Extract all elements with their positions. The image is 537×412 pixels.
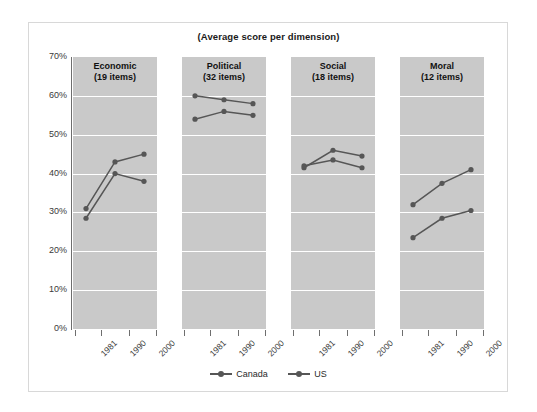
panel-name: Political [182,61,266,72]
x-axis-tick-label: 1981 [426,338,446,358]
gridline [73,212,157,213]
y-axis-tick-label: 0% [33,323,67,333]
gridline [291,135,375,136]
panel-economic: Economic(19 items) [73,57,157,329]
y-axis-tick-label: 40% [33,168,67,178]
y-axis-tick-label: 10% [33,284,67,294]
gridline [73,174,157,175]
gridline [400,212,484,213]
x-axis-tick-label: 1981 [317,338,337,358]
y-axis-line [71,57,72,330]
panel-political: Political(32 items) [182,57,266,329]
x-axis-tick [483,330,484,336]
panel-item-count: (19 items) [73,72,157,83]
panel-name: Moral [400,61,484,72]
line-marker-icon [288,370,310,378]
x-axis-tick [75,330,76,336]
gridline [400,96,484,97]
gridline [400,174,484,175]
x-axis-tick-label: 1990 [455,338,475,358]
panel-item-count: (18 items) [291,72,375,83]
x-axis-tick [238,330,239,336]
x-axis-tick [428,330,429,336]
x-axis-tick-label: 2000 [266,338,286,358]
panel-title-political: Political(32 items) [182,61,266,83]
legend-label-canada: Canada [236,369,268,379]
gridline [73,96,157,97]
x-axis-tick [210,330,211,336]
x-axis-tick-label: 2000 [484,338,504,358]
panel-name: Economic [73,61,157,72]
panel-name: Social [291,61,375,72]
gridline [400,135,484,136]
x-axis-tick-label: 1990 [346,338,366,358]
x-axis-tick-label: 1990 [128,338,148,358]
gridline [291,329,375,330]
gridline [182,290,266,291]
panel-item-count: (12 items) [400,72,484,83]
panel-title-economic: Economic(19 items) [73,61,157,83]
gridline [73,251,157,252]
gridline [291,212,375,213]
x-axis-tick [293,330,294,336]
chart-legend: Canada US [0,368,537,379]
x-axis-tick [456,330,457,336]
x-axis-tick [319,330,320,336]
x-axis-tick [402,330,403,336]
x-axis-tick-label: 1981 [208,338,228,358]
gridline [400,290,484,291]
x-axis-tick [374,330,375,336]
line-marker-icon [210,370,232,378]
panel-title-moral: Moral(12 items) [400,61,484,83]
x-axis-tick [347,330,348,336]
gridline [400,329,484,330]
panel-social: Social(18 items) [291,57,375,329]
y-axis-tick-label: 20% [33,245,67,255]
legend-item-canada: Canada [210,368,268,379]
gridline [73,290,157,291]
y-axis-tick-label: 70% [33,51,67,61]
x-axis-tick [156,330,157,336]
gridline [291,251,375,252]
y-axis-tick-label: 60% [33,90,67,100]
y-axis-tick-label: 30% [33,206,67,216]
gridline [400,251,484,252]
x-axis-tick [101,330,102,336]
x-axis-tick [265,330,266,336]
gridline [182,212,266,213]
panel-moral: Moral(12 items) [400,57,484,329]
x-axis-tick-label: 2000 [157,338,177,358]
gridline [291,290,375,291]
x-axis-tick-label: 2000 [375,338,395,358]
legend-item-us: US [288,368,327,379]
chart-plot-area: 0%10%20%30%40%50%60%70%Economic(19 items… [0,0,537,412]
x-axis-tick-label: 1990 [237,338,257,358]
gridline [182,135,266,136]
x-axis-tick [129,330,130,336]
x-axis-tick-label: 1981 [99,338,119,358]
gridline [73,329,157,330]
gridline [182,96,266,97]
gridline [291,174,375,175]
panel-item-count: (32 items) [182,72,266,83]
y-axis-tick-label: 50% [33,129,67,139]
gridline [291,96,375,97]
gridline [182,174,266,175]
legend-label-us: US [314,369,327,379]
gridline [182,329,266,330]
gridline [182,251,266,252]
x-axis-tick [184,330,185,336]
panel-title-social: Social(18 items) [291,61,375,83]
gridline [73,135,157,136]
